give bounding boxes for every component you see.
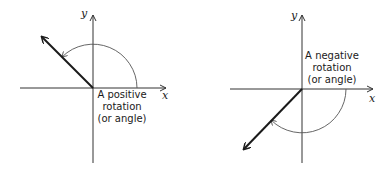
rotation-arc-cw <box>271 89 346 133</box>
rotation-diagram: y x A positive rotation (or angle) y x A… <box>0 0 391 178</box>
caption-line: (or angle) <box>304 74 360 86</box>
y-axis-label: y <box>81 7 87 20</box>
caption-line: A positive <box>94 89 150 101</box>
x-axis-label: x <box>369 92 375 105</box>
caption-line: A negative <box>304 50 360 62</box>
rotated-vector <box>244 89 302 149</box>
y-axis-label: y <box>291 9 297 22</box>
caption-negative-rotation: A negative rotation (or angle) <box>304 50 360 86</box>
caption-line: rotation <box>304 62 360 74</box>
x-axis-label: x <box>162 89 168 102</box>
caption-positive-rotation: A positive rotation (or angle) <box>94 89 150 125</box>
caption-line: rotation <box>94 101 150 113</box>
panel-negative-rotation <box>230 15 373 163</box>
caption-line: (or angle) <box>94 113 150 125</box>
rotation-arc-ccw <box>62 44 137 88</box>
